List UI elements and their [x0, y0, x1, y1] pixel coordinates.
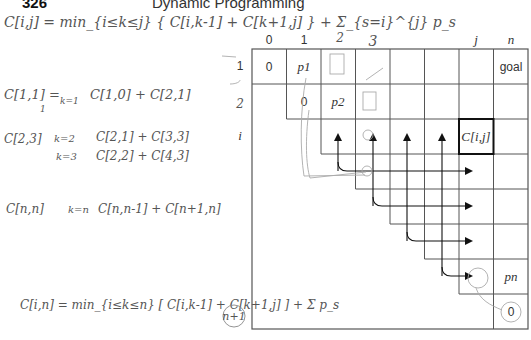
cell-r2-c1: 0 [301, 95, 308, 109]
cell-r1-c1: p1 [297, 59, 311, 74]
arrow-right-row4 [373, 197, 471, 206]
pencil-annotations [222, 54, 521, 327]
arrow-right-row6 [442, 267, 471, 276]
row-label-1: 1 [237, 59, 244, 73]
cell-pn: pn [504, 269, 518, 284]
col-label-3-handwritten: 3 [369, 33, 378, 49]
pencil-tick [366, 68, 383, 80]
grid-lines [252, 49, 528, 329]
dp-table-diagram: 0 1 2 3 j n 1 2 i 0 p1 goal [0, 0, 531, 340]
row-label-i: i [238, 128, 242, 143]
cell-goal: goal [500, 60, 523, 74]
row-labels: 1 2 i [235, 59, 244, 143]
pencil-circle-a [363, 130, 373, 140]
cell-r1-c0: 0 [266, 60, 273, 74]
pencil-circle-c [468, 268, 488, 288]
cell-bottom-0: 0 [508, 305, 515, 319]
pencil-box-r1c2 [330, 54, 344, 74]
pencil-box-r2c3 [363, 92, 376, 110]
circled-text: n+1 [222, 310, 245, 323]
cell-cij: C[i,j] [461, 129, 490, 144]
col-label-2-handwritten: 2 [335, 31, 344, 45]
arrow-right-row5 [407, 232, 471, 241]
pencil-path-2 [306, 110, 366, 178]
pencil-path-3 [476, 288, 502, 310]
cell-r2-c2: p2 [331, 94, 346, 109]
col-label-0: 0 [266, 33, 273, 47]
column-labels: 0 1 2 3 j n [266, 31, 515, 49]
col-label-n: n [508, 32, 515, 47]
dependency-arrows [338, 135, 471, 276]
col-label-j: j [472, 32, 478, 47]
row-label-2-handwritten: 2 [235, 97, 244, 111]
arrow-right-row3 [338, 162, 471, 171]
col-label-1: 1 [301, 33, 308, 47]
